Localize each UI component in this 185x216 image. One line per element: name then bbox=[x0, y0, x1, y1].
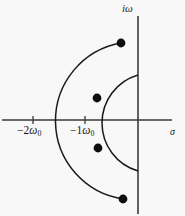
outer-arc bbox=[55, 43, 123, 199]
tick-subscript: 0 bbox=[37, 129, 41, 138]
pole-outer-lower bbox=[119, 195, 128, 204]
real-axis-label: σ bbox=[170, 127, 175, 137]
splane-plot-canvas bbox=[0, 0, 185, 216]
imaginary-axis-label: iω bbox=[122, 3, 133, 14]
tick-label-minus-2-omega-0: −2ω0 bbox=[17, 125, 41, 138]
pole-inner-lower bbox=[94, 144, 103, 153]
pole-outer-upper bbox=[117, 39, 126, 48]
tick-label-minus-1-omega-0: −1ω0 bbox=[70, 125, 94, 138]
tick-subscript: 0 bbox=[90, 129, 94, 138]
splane-diagram: iω σ −2ω0 −1ω0 bbox=[0, 0, 185, 216]
pole-inner-upper bbox=[93, 94, 102, 103]
inner-arc bbox=[102, 75, 138, 171]
